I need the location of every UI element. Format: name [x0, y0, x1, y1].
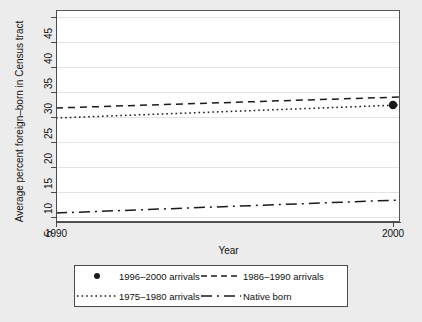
legend-entry-native-born: Native born	[199, 286, 349, 306]
chart-figure: 45 40 35 30 25 20 15 10 5 1990 2000 Aver…	[0, 0, 422, 322]
series-line-1986-1990	[56, 97, 400, 108]
x-tick-label-1990: 1990	[34, 228, 78, 239]
legend: 1996–2000 arrivals 1986–1990 arrivals 19…	[74, 265, 348, 307]
legend-label-1986-1990: 1986–1990 arrivals	[243, 271, 324, 282]
y-axis-title: Average percent foreign–born in Census t…	[14, 7, 25, 237]
legend-label-1996-2000: 1996–2000 arrivals	[119, 271, 200, 282]
dash-dot-line-icon	[199, 289, 243, 303]
legend-label-native-born: Native born	[243, 291, 292, 302]
x-tick-1990	[56, 222, 57, 227]
legend-entry-1996-2000: 1996–2000 arrivals	[75, 266, 199, 286]
x-axis-title: Year	[56, 245, 401, 256]
legend-entry-1975-1980: 1975–1980 arrivals	[75, 286, 199, 306]
legend-entry-1986-1990: 1986–1990 arrivals	[199, 266, 349, 286]
short-dashed-line-icon	[199, 269, 243, 283]
x-axis-line	[56, 222, 401, 223]
series-marker-1996-2000	[389, 101, 397, 109]
filled-circle-marker-icon	[75, 269, 119, 283]
y-axis-line	[56, 10, 57, 222]
series-layer	[56, 10, 400, 222]
x-tick-2000	[393, 222, 394, 227]
dotted-line-icon	[75, 289, 119, 303]
x-tick-label-2000: 2000	[371, 228, 415, 239]
legend-label-1975-1980: 1975–1980 arrivals	[119, 291, 200, 302]
series-line-native-born	[56, 200, 400, 213]
